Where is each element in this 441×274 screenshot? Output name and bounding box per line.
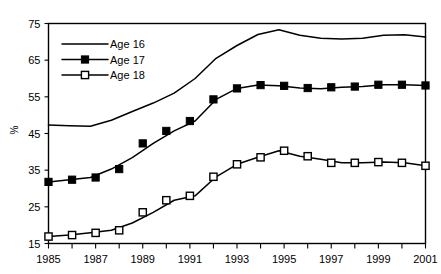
data-point-age-17 (257, 82, 264, 89)
data-point-age-17 (68, 176, 75, 183)
data-point-age-18 (422, 162, 429, 169)
data-point-age-18 (163, 197, 170, 204)
data-point-age-17 (45, 178, 52, 185)
chart-figure: 15253545556575%1985198719891991199319951… (0, 0, 441, 274)
data-point-age-17 (186, 117, 193, 124)
y-tick-label: 65 (28, 54, 40, 66)
data-point-age-18 (68, 231, 75, 238)
data-point-age-18 (257, 154, 264, 161)
y-tick-label: 15 (28, 238, 40, 250)
x-tick-label: 1991 (178, 253, 202, 265)
y-tick-label: 75 (28, 18, 40, 30)
data-point-age-18 (210, 173, 217, 180)
data-point-age-17 (375, 81, 382, 88)
data-point-age-18 (233, 161, 240, 168)
legend-label-1: Age 17 (110, 54, 145, 66)
data-point-age-17 (398, 81, 405, 88)
y-axis-title: % (9, 125, 20, 134)
y-tick-label: 55 (28, 91, 40, 103)
data-point-age-18 (351, 159, 358, 166)
data-point-age-17 (210, 96, 217, 103)
y-tick-label: 45 (28, 128, 40, 140)
data-point-age-17 (163, 127, 170, 134)
data-point-age-17 (116, 165, 123, 172)
x-tick-label: 1987 (83, 253, 107, 265)
data-point-age-17 (92, 174, 99, 181)
data-point-age-18 (116, 227, 123, 234)
data-point-age-17 (233, 85, 240, 92)
x-tick-label: 1993 (225, 253, 249, 265)
line-chart: 15253545556575%1985198719891991199319951… (0, 0, 441, 274)
data-point-age-18 (398, 159, 405, 166)
data-point-age-17 (422, 82, 429, 89)
data-point-age-17 (351, 83, 358, 90)
y-tick-label: 35 (28, 164, 40, 176)
x-tick-label: 1997 (319, 253, 343, 265)
x-tick-label: 2001 (413, 253, 437, 265)
data-point-age-18 (281, 147, 288, 154)
y-tick-label: 25 (28, 201, 40, 213)
data-point-age-18 (139, 209, 146, 216)
data-point-age-17 (281, 82, 288, 89)
data-point-age-18 (186, 192, 193, 199)
x-tick-label: 1995 (272, 253, 296, 265)
data-point-age-17 (328, 84, 335, 91)
plot-frame (49, 24, 426, 244)
data-point-age-18 (304, 153, 311, 160)
legend-marker-1 (81, 56, 88, 63)
x-tick-label: 1989 (131, 253, 155, 265)
data-point-age-17 (139, 140, 146, 147)
x-tick-label: 1999 (366, 253, 390, 265)
data-point-age-18 (375, 159, 382, 166)
data-point-age-18 (45, 233, 52, 240)
data-point-age-17 (304, 84, 311, 91)
legend-marker-2 (81, 71, 88, 78)
legend-label-0: Age 16 (110, 38, 145, 50)
data-point-age-18 (92, 229, 99, 236)
x-tick-label: 1985 (36, 253, 60, 265)
data-point-age-18 (328, 159, 335, 166)
legend-label-2: Age 18 (110, 69, 145, 81)
